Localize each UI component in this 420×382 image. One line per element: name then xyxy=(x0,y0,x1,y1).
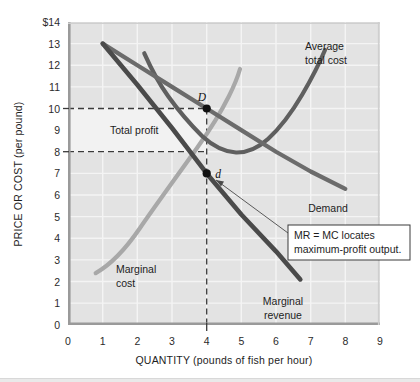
point-D-marker xyxy=(203,104,211,112)
marginal-cost-label-line2: cost xyxy=(116,277,135,289)
average-total-cost-label-line1: Average xyxy=(305,40,344,52)
y-tick-12: 12 xyxy=(48,59,60,71)
x-tick-4: 4 xyxy=(204,335,210,347)
x-tick-6: 6 xyxy=(273,335,279,347)
marginal-revenue-label-line1: Marginal xyxy=(263,295,303,307)
figure-bottom-rule xyxy=(0,378,420,382)
y-tick-0: 0 xyxy=(54,319,60,331)
x-tick-9: 9 xyxy=(377,335,383,347)
figure-container: D d $14 13 12 11 10 9 8 7 6 5 xyxy=(0,0,420,382)
marginal-cost-label-line1: Marginal xyxy=(116,263,156,275)
average-total-cost-label-line2: total cost xyxy=(305,54,347,66)
mr-mc-callout-line2: maximum-profit output. xyxy=(294,243,401,255)
y-tick-8: 8 xyxy=(54,146,60,158)
x-axis-title: QUANTITY (pounds of fish per hour) xyxy=(135,354,312,366)
x-tick-0: 0 xyxy=(65,335,71,347)
y-tick-5: 5 xyxy=(54,211,60,223)
y-tick-10: 10 xyxy=(48,103,60,115)
y-tick-7: 7 xyxy=(54,167,60,179)
y-tick-9: 9 xyxy=(54,124,60,136)
x-tick-1: 1 xyxy=(100,335,106,347)
economics-chart: D d $14 13 12 11 10 9 8 7 6 5 xyxy=(0,0,420,382)
demand-label: Demand xyxy=(308,202,348,214)
y-tick-4: 4 xyxy=(54,232,60,244)
y-tick-13: 13 xyxy=(48,38,60,50)
point-d-label: d xyxy=(215,168,221,180)
point-D-label: D xyxy=(197,91,207,103)
x-tick-5: 5 xyxy=(238,335,244,347)
y-axis-title: PRICE OR COST (per pound) xyxy=(12,102,24,247)
x-tick-2: 2 xyxy=(134,335,140,347)
y-tick-1: 1 xyxy=(54,297,60,309)
y-tick-2: 2 xyxy=(54,276,60,288)
total-profit-label: Total profit xyxy=(110,124,159,136)
y-tick-14: $14 xyxy=(42,16,60,28)
mr-mc-callout-line1: MR = MC locates xyxy=(294,229,375,241)
x-tick-8: 8 xyxy=(342,335,348,347)
x-tick-7: 7 xyxy=(308,335,314,347)
point-d-marker xyxy=(203,169,211,177)
x-tick-3: 3 xyxy=(169,335,175,347)
marginal-revenue-label-line2: revenue xyxy=(264,309,302,321)
y-tick-11: 11 xyxy=(49,81,60,93)
y-tick-6: 6 xyxy=(54,189,60,201)
y-tick-3: 3 xyxy=(54,254,60,266)
